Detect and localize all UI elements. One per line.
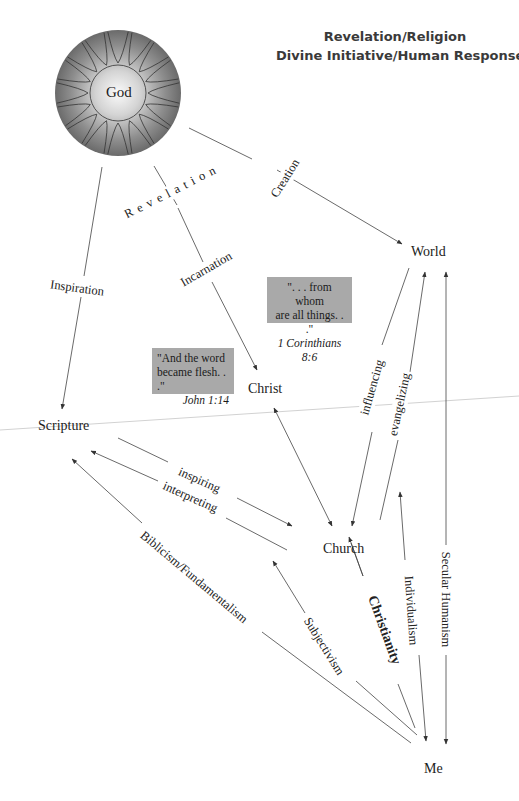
quote-corinthians-line2: are all things. . ." — [272, 308, 347, 336]
diagram-title-line1: Revelation/Religion — [300, 29, 490, 44]
edge-inspiration-a — [84, 167, 102, 276]
edge-christ-church — [274, 408, 332, 526]
node-god: God — [106, 84, 132, 101]
edge-interpreting-b — [91, 451, 158, 481]
edge-creation-b — [277, 170, 402, 244]
quote-john-ref: John 1:14 — [157, 393, 229, 407]
edge-revelation-b — [178, 208, 203, 262]
edge-inspiring-a — [118, 438, 168, 462]
quote-corinthians-line1: ". . . from whom — [272, 280, 347, 308]
edge-christianity-b — [398, 684, 415, 728]
label-secular-humanism: Secular Humanism — [438, 550, 453, 649]
quote-corinthians: ". . . from whom are all things. . ." 1 … — [267, 277, 352, 323]
edge-creation-a — [189, 128, 252, 159]
edge-subjectivism-b — [273, 561, 305, 613]
quote-john-line2: became flesh. . ." — [157, 365, 229, 393]
edge-influencing-b — [352, 432, 372, 526]
diagram-canvas — [0, 0, 519, 801]
quote-john-line1: "And the word — [157, 351, 229, 365]
node-me: Me — [424, 761, 443, 777]
edge-evangelizing-a — [380, 440, 398, 520]
node-church: Church — [323, 541, 364, 557]
edge-interpreting-a — [226, 518, 287, 550]
edge-evangelizing-b — [410, 272, 425, 372]
node-scripture: Scripture — [38, 418, 89, 434]
edge-subjectivism-a — [356, 681, 417, 735]
node-christ: Christ — [248, 381, 282, 397]
edge-inspiration-b — [62, 297, 81, 409]
edge-inspiring-b — [237, 498, 292, 526]
edge-influencing-a — [382, 268, 409, 345]
quote-john: "And the word became flesh. . ." John 1:… — [152, 348, 234, 394]
edge-individualism-b — [419, 655, 426, 741]
diagram-title-line2: Divine Initiative/Human Response — [276, 48, 516, 63]
edge-biblicism-b — [72, 459, 142, 523]
edge-individualism-a — [400, 492, 405, 560]
node-world: World — [411, 244, 446, 260]
quote-corinthians-ref: 1 Corinthians 8:6 — [272, 336, 347, 364]
